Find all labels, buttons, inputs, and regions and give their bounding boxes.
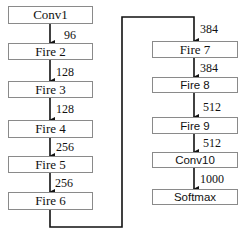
- node-fire2: Fire 2: [8, 43, 93, 60]
- node-label: Fire 4: [35, 121, 66, 137]
- node-fire8: Fire 8: [152, 77, 238, 93]
- edge-label-128b: 128: [56, 103, 74, 115]
- node-fire4: Fire 4: [8, 120, 93, 138]
- edge-label-1000: 1000: [200, 173, 224, 185]
- node-label: Fire 3: [35, 82, 66, 98]
- node-label: Fire 6: [35, 193, 66, 209]
- node-label: Fire 8: [180, 79, 209, 91]
- squeezenet-diagram: Conv1 Fire 2 Fire 3 Fire 4 Fire 5 Fire 6…: [0, 0, 244, 233]
- edge-label-384a: 384: [200, 23, 218, 35]
- node-label: Fire 5: [35, 157, 66, 173]
- node-softmax: Softmax: [152, 189, 238, 205]
- edge-label-512b: 512: [203, 137, 221, 149]
- node-fire3: Fire 3: [8, 81, 93, 98]
- edge-label-256b: 256: [55, 177, 73, 189]
- node-fire7: Fire 7: [152, 41, 238, 58]
- node-label: Fire 2: [35, 44, 66, 60]
- node-conv1: Conv1: [8, 6, 93, 24]
- edge-label-384b: 384: [200, 62, 218, 74]
- node-label: Fire 9: [180, 120, 209, 132]
- node-conv10: Conv10: [152, 152, 238, 168]
- node-label: Conv10: [175, 154, 215, 166]
- node-label: Softmax: [174, 191, 216, 203]
- edge-label-96: 96: [64, 29, 76, 41]
- node-fire6: Fire 6: [8, 192, 93, 210]
- node-label: Fire 7: [180, 42, 211, 58]
- node-label: Conv1: [33, 7, 68, 23]
- node-fire9: Fire 9: [152, 117, 238, 134]
- edge-label-128a: 128: [56, 66, 74, 78]
- edge-label-256a: 256: [56, 141, 74, 153]
- node-fire5: Fire 5: [8, 156, 93, 173]
- edge-label-512a: 512: [203, 101, 221, 113]
